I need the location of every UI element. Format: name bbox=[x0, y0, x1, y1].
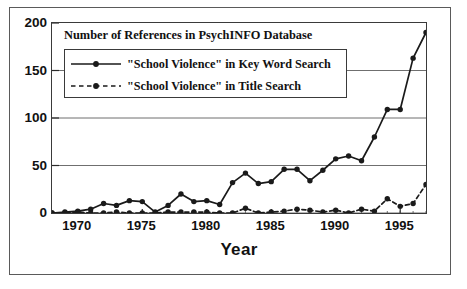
legend-entry-title: "School Violence" in Title Search bbox=[65, 74, 346, 98]
legend-label: "School Violence" in Title Search bbox=[127, 79, 301, 94]
x-tick-label: 1975 bbox=[127, 219, 156, 232]
plot-area: Number of References in PsychINFO Databa… bbox=[51, 22, 427, 214]
x-tick-label: 1985 bbox=[256, 219, 285, 232]
y-tick-label: 200 bbox=[5, 16, 47, 30]
x-axis-labels: 197019751980198519901995 bbox=[51, 219, 427, 237]
legend-label: "School Violence" in Key Word Search bbox=[127, 57, 331, 72]
x-tick-label: 1990 bbox=[320, 219, 349, 232]
chart-legend: "School Violence" in Key Word Search "Sc… bbox=[64, 49, 347, 98]
x-axis-title: Year bbox=[51, 240, 427, 260]
legend-sample-solid-line-icon bbox=[65, 53, 127, 75]
y-tick-label: 100 bbox=[5, 111, 47, 125]
y-tick-label: 0 bbox=[5, 206, 47, 220]
x-tick-label: 1980 bbox=[191, 219, 220, 232]
legend-entry-keyword: "School Violence" in Key Word Search bbox=[65, 52, 346, 76]
chart-figure: 200 150 100 50 0 Number of References in… bbox=[0, 0, 467, 289]
y-tick-label: 50 bbox=[5, 159, 47, 173]
legend-sample-dashed-line-icon bbox=[65, 75, 127, 97]
x-tick-label: 1995 bbox=[385, 219, 414, 232]
chart-title: Number of References in PsychINFO Databa… bbox=[64, 28, 312, 43]
y-tick-label: 150 bbox=[5, 64, 47, 78]
y-axis-labels: 200 150 100 50 0 bbox=[0, 22, 47, 214]
x-tick-label: 1970 bbox=[62, 219, 91, 232]
